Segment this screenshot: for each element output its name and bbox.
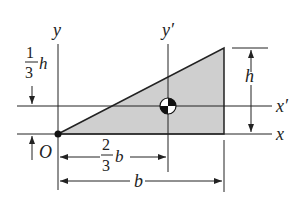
y-axis-label: y [51,20,61,40]
origin-point [55,131,62,138]
height-label: h [245,66,254,86]
centroid-y-numerator: 1 [26,44,34,61]
y-prime-axis-label: y′ [160,20,175,40]
centroid-icon [160,98,176,114]
centroid-x-denominator: 3 [102,157,110,174]
triangle-diagram: h 1 3 h 2 3 b b y y′ x′ x O [0,0,301,198]
triangle-area [58,48,224,134]
origin-label: O [39,142,52,162]
x-prime-axis-label: x′ [275,96,289,116]
centroid-y-var: h [39,54,48,73]
base-label: b [134,171,143,191]
centroid-x-var: b [115,147,124,166]
x-axis-label: x [275,124,284,144]
centroid-x-numerator: 2 [102,136,110,153]
centroid-y-denominator: 3 [25,64,33,81]
